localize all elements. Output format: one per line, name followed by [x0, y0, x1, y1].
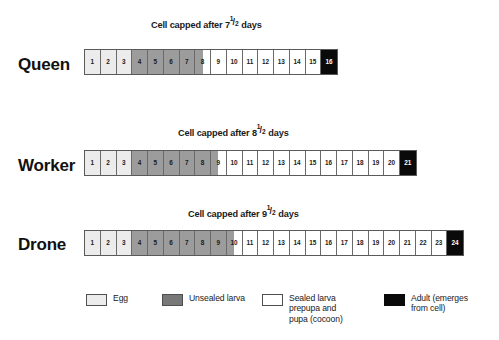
day-number: 24 — [452, 240, 459, 246]
day-number: 23 — [435, 240, 442, 246]
day-number: 2 — [106, 240, 110, 246]
day-number: 5 — [154, 160, 158, 166]
day-number: 5 — [154, 240, 158, 246]
day-cell-worker-8-unsealed-larva: 8 — [195, 151, 211, 175]
legend-label-egg: Egg — [113, 293, 128, 303]
day-cell-drone-12-sealed-larva: 12 — [258, 231, 274, 255]
day-cell-drone-1-egg: 1 — [85, 231, 101, 255]
day-cell-worker-16-sealed-larva: 16 — [321, 151, 337, 175]
day-number: 12 — [262, 59, 269, 65]
day-number: 14 — [294, 160, 301, 166]
day-number: 6 — [169, 240, 173, 246]
day-number: 4 — [138, 59, 142, 65]
day-number: 16 — [325, 240, 332, 246]
day-cell-drone-8-unsealed-larva: 8 — [195, 231, 211, 255]
day-number: 5 — [154, 59, 158, 65]
day-number: 20 — [388, 240, 395, 246]
timeline-bar-queen: 12345678910111213141516 — [84, 49, 338, 75]
day-number: 7 — [185, 59, 189, 65]
day-cell-drone-22-sealed-larva: 22 — [416, 231, 432, 255]
day-number: 11 — [246, 160, 253, 166]
legend-item-sealed-larva: Sealed larva prepupa and pupa (cocoon) — [262, 293, 343, 324]
day-cell-queen-9-sealed-larva: 9 — [211, 50, 227, 74]
day-number: 13 — [278, 160, 285, 166]
day-number: 10 — [231, 160, 238, 166]
caption-drone-suffix: days — [276, 209, 299, 219]
day-cell-queen-2-egg: 2 — [101, 50, 117, 74]
day-number: 9 — [217, 240, 221, 246]
day-number: 12 — [262, 160, 269, 166]
day-cell-worker-13-sealed-larva: 13 — [274, 151, 290, 175]
day-number: 7 — [185, 240, 189, 246]
day-cell-drone-11-sealed-larva: 11 — [243, 231, 259, 255]
day-number: 11 — [246, 59, 253, 65]
day-cell-worker-15-sealed-larva: 15 — [306, 151, 322, 175]
day-number: 15 — [309, 240, 316, 246]
day-number: 4 — [138, 240, 142, 246]
caption-drone-fraction: 1/2 — [267, 208, 276, 217]
row-label-worker: Worker — [18, 156, 75, 176]
legend-label-adult: Adult (emerges from cell) — [411, 293, 468, 314]
day-cell-worker-9-capping-transition: 9 — [211, 151, 227, 175]
row-label-queen: Queen — [18, 55, 70, 75]
day-cell-worker-17-sealed-larva: 17 — [337, 151, 353, 175]
day-number: 19 — [372, 160, 379, 166]
day-number: 17 — [341, 240, 348, 246]
day-cell-queen-6-unsealed-larva: 6 — [164, 50, 180, 74]
day-cell-queen-5-unsealed-larva: 5 — [148, 50, 164, 74]
day-number: 13 — [278, 59, 285, 65]
day-cell-drone-15-sealed-larva: 15 — [306, 231, 322, 255]
timeline-bar-drone: 123456789101112131415161718192021222324 — [84, 230, 464, 256]
legend-item-adult: Adult (emerges from cell) — [384, 293, 468, 314]
caption-queen-fraction: 1/2 — [230, 19, 239, 28]
day-number: 6 — [169, 59, 173, 65]
day-number: 9 — [217, 160, 221, 166]
day-number: 15 — [309, 160, 316, 166]
day-cell-drone-24-adult: 24 — [447, 231, 463, 255]
legend-item-unsealed-larva: Unsealed larva — [162, 293, 245, 306]
caption-worker: Cell capped after 81/2 days — [178, 127, 289, 138]
day-cell-drone-20-sealed-larva: 20 — [384, 231, 400, 255]
day-number: 7 — [185, 160, 189, 166]
day-cell-worker-21-adult: 21 — [400, 151, 416, 175]
day-number: 12 — [262, 240, 269, 246]
day-cell-worker-20-sealed-larva: 20 — [384, 151, 400, 175]
caption-queen: Cell capped after 71/2 days — [151, 19, 262, 30]
day-number: 2 — [106, 160, 110, 166]
day-cell-queen-10-sealed-larva: 10 — [227, 50, 243, 74]
day-cell-worker-1-egg: 1 — [85, 151, 101, 175]
day-cell-worker-6-unsealed-larva: 6 — [164, 151, 180, 175]
day-number: 10 — [231, 240, 238, 246]
day-cell-queen-15-sealed-larva: 15 — [306, 50, 322, 74]
legend-label-sealed: Sealed larva prepupa and pupa (cocoon) — [289, 293, 343, 324]
day-number: 16 — [326, 59, 333, 65]
day-cell-queen-14-sealed-larva: 14 — [290, 50, 306, 74]
day-number: 3 — [122, 160, 126, 166]
day-number: 18 — [357, 240, 364, 246]
day-number: 2 — [106, 59, 110, 65]
day-cell-drone-21-sealed-larva: 21 — [400, 231, 416, 255]
legend-item-egg: Egg — [86, 293, 128, 306]
day-cell-worker-19-sealed-larva: 19 — [369, 151, 385, 175]
timeline-bar-worker: 123456789101112131415161718192021 — [84, 150, 417, 176]
day-cell-drone-16-sealed-larva: 16 — [321, 231, 337, 255]
day-cell-worker-14-sealed-larva: 14 — [290, 151, 306, 175]
day-cell-drone-6-unsealed-larva: 6 — [164, 231, 180, 255]
day-number: 6 — [169, 160, 173, 166]
day-cell-drone-2-egg: 2 — [101, 231, 117, 255]
day-number: 1 — [91, 160, 95, 166]
day-number: 18 — [357, 160, 364, 166]
day-cell-drone-7-unsealed-larva: 7 — [180, 231, 196, 255]
day-number: 22 — [420, 240, 427, 246]
caption-worker-fraction: 1/2 — [257, 127, 266, 136]
day-cell-worker-10-sealed-larva: 10 — [227, 151, 243, 175]
day-cell-queen-4-unsealed-larva: 4 — [132, 50, 148, 74]
development-chart: Cell capped after 71/2 days Queen 123456… — [0, 0, 499, 340]
day-cell-queen-3-egg: 3 — [117, 50, 133, 74]
day-cell-drone-17-sealed-larva: 17 — [337, 231, 353, 255]
day-number: 3 — [122, 240, 126, 246]
caption-worker-suffix: days — [266, 128, 289, 138]
day-number: 10 — [231, 59, 238, 65]
day-cell-drone-5-unsealed-larva: 5 — [148, 231, 164, 255]
day-number: 17 — [341, 160, 348, 166]
